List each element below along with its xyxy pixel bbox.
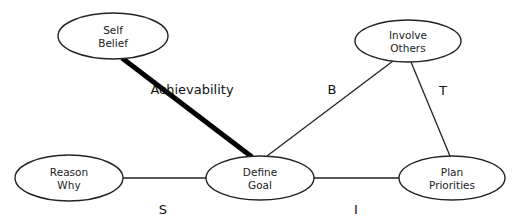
node-plan-priorities: PlanPriorities <box>399 156 505 200</box>
goal-setting-diagram: SelfBeliefInvolveOthersReasonWhyDefineGo… <box>0 0 525 223</box>
edge-self-belief-define-goal <box>122 58 252 157</box>
edge-label-define-goal-involve-others: B <box>328 82 337 97</box>
edge-define-goal-involve-others <box>267 61 393 156</box>
node-label-line: Define <box>243 166 277 178</box>
edge-label-reason-why-define-goal: S <box>159 202 167 217</box>
node-define-goal: DefineGoal <box>206 156 314 200</box>
edge-involve-others-plan-priorities <box>411 62 450 156</box>
node-label-line: Involve <box>389 29 427 41</box>
nodes-layer: SelfBeliefInvolveOthersReasonWhyDefineGo… <box>15 13 505 201</box>
edge-label-involve-others-plan-priorities: T <box>438 83 447 98</box>
edge-labels-layer: AchievabilityBTSI <box>150 82 447 217</box>
node-label-line: Why <box>57 179 80 191</box>
edge-label-define-goal-plan-priorities: I <box>354 202 358 217</box>
node-reason-why: ReasonWhy <box>15 155 123 201</box>
node-label-line: Plan <box>441 166 463 178</box>
node-label-line: Belief <box>98 37 128 49</box>
node-label-line: Reason <box>50 166 88 178</box>
node-self-belief: SelfBelief <box>58 13 168 59</box>
node-label-line: Goal <box>248 179 272 191</box>
node-label-line: Others <box>390 42 425 54</box>
node-involve-others: InvolveOthers <box>355 20 461 62</box>
node-label-line: Self <box>103 24 123 36</box>
node-label-line: Priorities <box>429 179 475 191</box>
edge-label-self-belief-define-goal: Achievability <box>150 82 234 97</box>
